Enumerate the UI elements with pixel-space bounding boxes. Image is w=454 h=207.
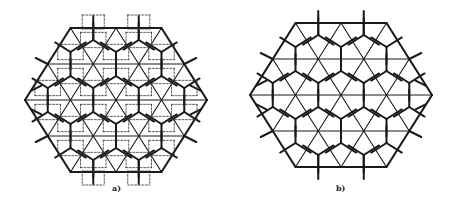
panel-b-tiling [250, 11, 432, 179]
panel-a-label: a) [112, 183, 121, 193]
tiling-figure [0, 0, 454, 207]
panel-a-tiling [25, 15, 207, 185]
panel-b-label: b) [336, 183, 345, 193]
